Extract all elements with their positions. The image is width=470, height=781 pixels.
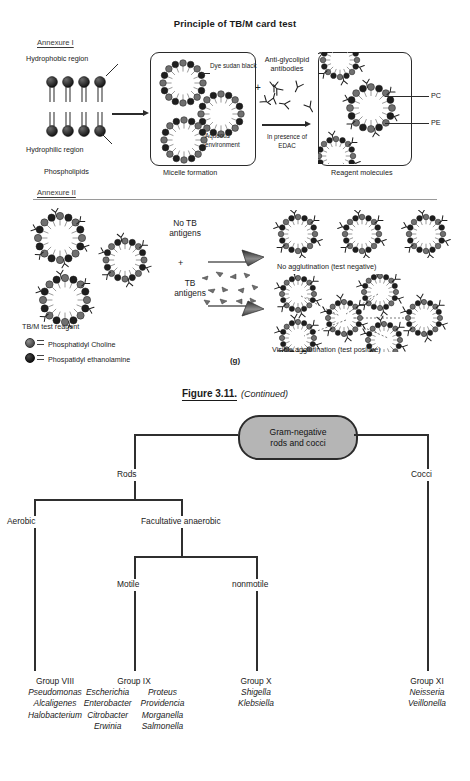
pc-label: PC <box>431 91 441 100</box>
group-xi-drop-line <box>427 481 429 671</box>
genus-name: Neisseria <box>408 687 446 698</box>
group-heading-x: Group X <box>206 676 306 686</box>
genus-name: Escherichia <box>84 687 132 698</box>
rods-drop-line <box>134 434 136 469</box>
hydrophilic-region-label: Hydrophilic region <box>26 145 84 154</box>
visible-agglutination-cluster <box>268 274 463 352</box>
dye-leader-line <box>201 73 210 74</box>
aerobic-drop-line <box>34 499 36 516</box>
no-agglutination-label: No agglutination (test negative) <box>277 262 377 271</box>
tree-label-rods: Rods <box>117 469 137 479</box>
tree-label-aerobic: Aerobic <box>7 516 35 526</box>
figure-caption: Figure 3.11.(Continued) <box>0 388 470 399</box>
tree-root-node: Gram-negative rods and cocci <box>238 415 358 460</box>
facultative-split-bar <box>134 556 256 558</box>
arrow-to-reagent <box>262 124 306 126</box>
antibody-icons: + <box>254 78 320 120</box>
nonmotile-drop-line <box>256 556 258 579</box>
tbm-test-reagent-micelles <box>20 208 160 328</box>
figure-panel: Principle of TB/M card test Annexure I <box>0 0 470 400</box>
no-tb-antigens-label: No TB antigens <box>163 218 207 238</box>
hydrophobic-region-label: Hydrophobic region <box>26 54 88 63</box>
group-heading-xi: Group XI <box>377 676 470 686</box>
legend-label-pc: Phosphatidyl Choline <box>48 340 116 349</box>
tree-label-nonmotile: nonmotile <box>232 579 268 589</box>
group-viii-drop-line <box>34 528 36 671</box>
genus-name: Klebsiella <box>238 698 274 709</box>
group-block-xi: Group XI Neisseria Veillonella <box>377 676 470 710</box>
anti-glycolipid-antibodies-label: Anti-glycolipid antibodies <box>256 55 318 73</box>
phosphatidyl-choline-swatch-icon <box>25 338 35 348</box>
root-line-1: Gram-negative <box>270 427 327 438</box>
no-agglutination-micelles <box>272 210 458 258</box>
arrow-to-micelle <box>112 113 144 115</box>
genus-name: Shigella <box>238 687 274 698</box>
figure-title: Principle of TB/M card test <box>0 18 470 29</box>
group-block-x: Group X Shigella Klebsiella <box>206 676 306 710</box>
group-heading-ix: Group IX <box>59 676 209 686</box>
phospholipid-monomers-diagram <box>22 58 152 178</box>
micelle-formation-label: Micelle formation <box>163 168 217 177</box>
pe-leader-line <box>385 123 429 124</box>
root-line-2: rods and cocci <box>270 438 327 449</box>
legend-item-pc: Phosphatidyl Choline <box>25 338 116 349</box>
genus-name: Enterobacter <box>84 698 132 709</box>
tree-label-cocci: Cocci <box>411 469 432 479</box>
svg-text:+: + <box>255 82 261 93</box>
group-ix-column-1: Proteus Providencia Morganella Salmonell… <box>141 687 185 733</box>
facultative-stem <box>181 528 183 556</box>
tree-label-motile: Motile <box>117 579 139 589</box>
motile-drop-line <box>134 556 136 579</box>
block-arrow-negative <box>208 248 266 268</box>
plus-sign-label: + <box>178 258 183 268</box>
arrow-to-reagent-head <box>305 121 311 127</box>
tree-label-facultative-anaerobic: Facultative anaerobic <box>141 516 221 526</box>
rods-split-bar <box>34 499 182 501</box>
root-branch-left <box>134 434 238 436</box>
reagent-molecules-label: Reagent molecules <box>331 168 393 177</box>
tb-antigen-particles <box>198 268 262 306</box>
figure-number: Figure 3.11. <box>182 388 237 399</box>
arrow-to-micelle-head <box>143 110 149 116</box>
tbm-test-reagent-label: TB/M test reagent <box>22 322 79 331</box>
group-xi-column-0: Neisseria Veillonella <box>408 687 446 710</box>
lipid-tail-icon <box>37 340 44 345</box>
group-x-column-0: Shigella Klebsiella <box>238 687 274 710</box>
annexure-2-heading: Annexure II <box>37 188 76 197</box>
group-ix-column-0: Escherichia Enterobacter Citrobacter Erw… <box>84 687 132 733</box>
annexure-1-heading: Annexure I <box>37 38 74 47</box>
visible-agglutination-label: Visible agglutination (test positive) <box>272 345 381 354</box>
group-block-ix: Group IX Escherichia Enterobacter Citrob… <box>59 676 209 733</box>
genus-name: Providencia <box>141 698 185 709</box>
genus-name: Salmonella <box>141 721 185 732</box>
genus-name: Morganella <box>141 710 185 721</box>
root-branch-right <box>354 434 427 436</box>
aqueous-environment-label: Aqueous environment <box>205 132 251 149</box>
taxonomy-tree: Gram-negative rods and cocci Rods Cocci … <box>0 408 470 781</box>
edac-label: In presence of EDAC <box>263 133 311 150</box>
annexure-2-rule <box>33 199 437 200</box>
genus-name: Veillonella <box>408 698 446 709</box>
group-ix-drop-line <box>134 591 136 671</box>
rods-stem <box>134 481 136 499</box>
panel-letter-g: (g) <box>0 356 470 365</box>
genus-name: Citrobacter <box>84 710 132 721</box>
genus-name: Erwinia <box>84 721 132 732</box>
reagent-micelles-svg <box>318 52 410 164</box>
cocci-drop-line <box>427 434 429 469</box>
group-x-drop-line <box>256 591 258 671</box>
figure-continued: (Continued) <box>241 389 288 399</box>
facultative-drop-line <box>181 499 183 516</box>
genus-name: Proteus <box>141 687 185 698</box>
pc-leader-line <box>385 96 429 97</box>
pe-label: PE <box>431 118 441 127</box>
dye-sudan-black-label: Dye sudan black <box>210 62 257 70</box>
phospholipids-label: Phospholipids <box>44 167 89 176</box>
